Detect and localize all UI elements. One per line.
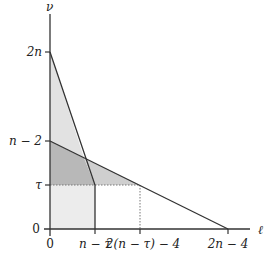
region-diagram: ν ℓ 2n n − 2 τ 0 0 n − τ 2(n − τ) − 4 2n… [0,0,277,268]
x-tick-label-0: 0 [46,237,54,251]
x-axis-label: ℓ [258,223,263,237]
y-tick-label-0: 0 [32,222,40,236]
x-tick-label-2n-tau-4: 2(n − τ) − 4 [105,237,180,251]
light-rect-lower-region [50,185,95,229]
y-tick-label-n-2: n − 2 [9,134,42,148]
x-tick-label-2n-4: 2n − 4 [207,237,249,251]
diagram-canvas: ν ℓ 2n n − 2 τ 0 0 n − τ 2(n − τ) − 4 2n… [0,0,277,268]
y-tick-label-tau: τ [35,178,42,192]
y-axis-label: ν [46,0,53,14]
y-tick-label-2n: 2n [26,45,42,59]
